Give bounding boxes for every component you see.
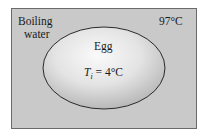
boiling-egg-diagram: Boiling water 97°C Egg Ti = 4°C	[0, 0, 207, 136]
temp-value: = 4°C	[93, 66, 124, 78]
medium-label-line2: water	[24, 28, 50, 40]
egg-label: Egg	[94, 40, 113, 53]
medium-label-line1: Boiling	[18, 15, 53, 28]
medium-temperature: 97°C	[159, 15, 183, 27]
